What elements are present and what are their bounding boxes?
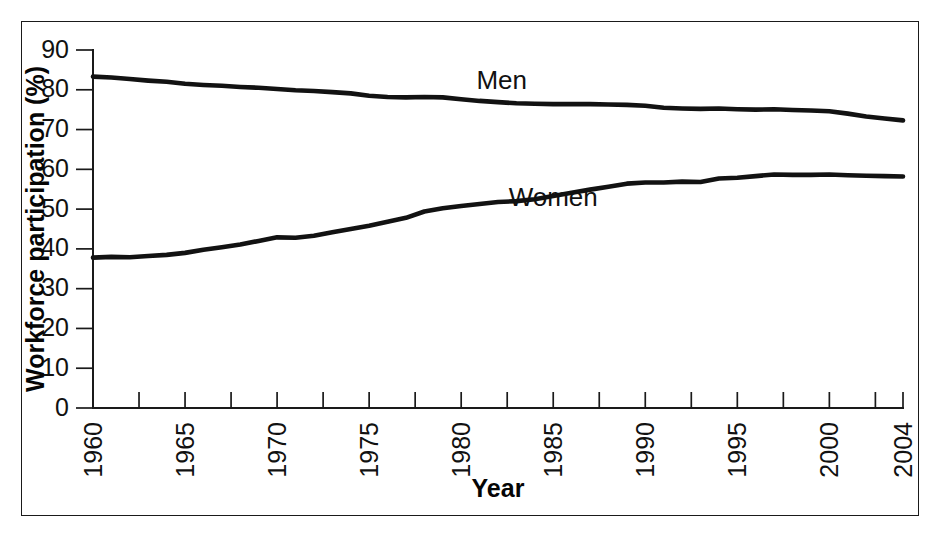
series-label-women: Women xyxy=(509,182,598,212)
x-tick-label: 1965 xyxy=(171,422,199,478)
series-label-men: Men xyxy=(476,65,527,95)
x-tick-label: 1960 xyxy=(79,422,107,478)
x-tick-label: 1985 xyxy=(539,422,567,478)
x-tick-label: 1995 xyxy=(723,422,751,478)
x-tick-label: 1975 xyxy=(355,422,383,478)
x-tick-label: 1970 xyxy=(263,422,291,478)
x-tick-label: 2004 xyxy=(889,422,917,478)
y-axis-title: Workforce participation (%) xyxy=(21,66,49,392)
x-tick-label: 2000 xyxy=(815,422,843,478)
x-tick-marks xyxy=(93,392,903,408)
line-chart: 0102030405060708090 19601965197019751980… xyxy=(0,0,926,541)
x-tick-label: 1980 xyxy=(447,422,475,478)
x-axis-title: Year xyxy=(472,474,525,502)
y-tick-marks xyxy=(76,50,93,408)
figure-container: 0102030405060708090 19601965197019751980… xyxy=(0,0,926,541)
x-tick-labels: 1960196519701975198019851990199520002004 xyxy=(79,422,917,478)
series-line-women xyxy=(93,175,903,258)
y-tick-label: 90 xyxy=(41,35,69,63)
series-paths xyxy=(93,77,903,258)
x-tick-label: 1990 xyxy=(631,422,659,478)
scan-edge-band xyxy=(0,519,926,541)
y-tick-label: 0 xyxy=(55,393,69,421)
series-inline-labels: MenWomen xyxy=(476,65,597,212)
